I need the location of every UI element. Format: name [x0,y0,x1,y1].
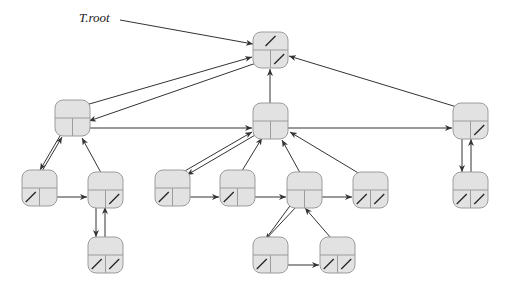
tree-node-root [253,32,288,68]
tree-diagram [0,0,509,289]
tree-node-M [320,237,355,273]
edge-label-pointer [120,20,253,44]
edge-parent [72,57,252,109]
nodes-layer [22,32,488,273]
tree-node-I [353,172,388,208]
tree-node-E [88,172,123,208]
tree-node-B [253,103,288,139]
tree-node-D [22,170,57,206]
edge-left-child [89,61,262,121]
edge-left-child [265,206,297,240]
tree-node-J [453,172,488,208]
tree-node-G [220,170,255,206]
tree-node-C [453,103,488,139]
tree-node-H [287,172,322,208]
tree-node-L [253,237,288,273]
edge-left-child [187,131,262,175]
tree-node-K [88,237,123,273]
tree-node-A [55,100,90,136]
tree-node-F [155,170,190,206]
edge-parent [289,56,470,111]
